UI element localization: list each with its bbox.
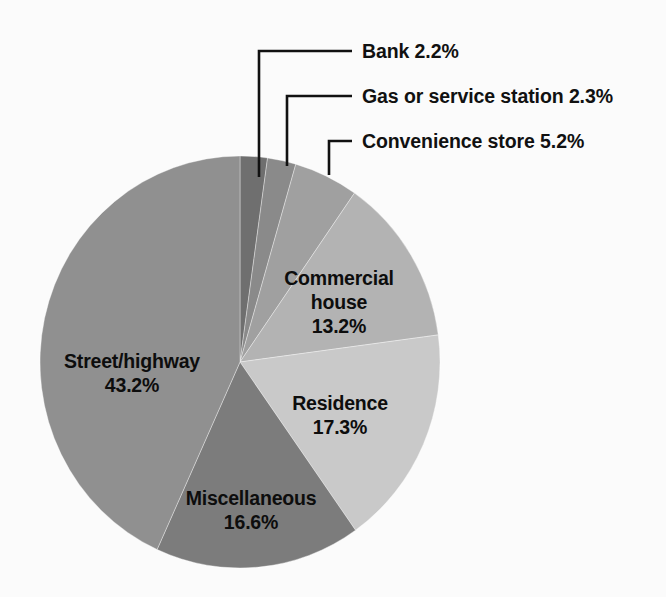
slice-label-commercial-house-line1: Commercial [284, 267, 394, 289]
callout-label-gas-or-service-station: Gas or service station 2.3% [362, 85, 613, 107]
pie-chart-figure: Bank 2.2%Gas or service station 2.3%Conv… [0, 0, 666, 597]
slice-label-commercial-house-value: 13.2% [312, 315, 366, 337]
slice-label-commercial-house-line2: house [311, 291, 368, 313]
slice-label-street-highway-value: 43.2% [105, 374, 159, 396]
slice-label-residence-line1: Residence [292, 392, 388, 414]
slice-label-street-highway-line1: Street/highway [64, 350, 200, 372]
pie-chart-canvas: Bank 2.2%Gas or service station 2.3%Conv… [0, 0, 666, 597]
callout-label-convenience-store: Convenience store 5.2% [362, 130, 584, 152]
slice-label-miscellaneous-line1: Miscellaneous [186, 487, 317, 509]
slice-label-miscellaneous-value: 16.6% [224, 511, 278, 533]
callout-label-bank: Bank 2.2% [362, 40, 459, 62]
slice-label-residence-value: 17.3% [313, 416, 367, 438]
